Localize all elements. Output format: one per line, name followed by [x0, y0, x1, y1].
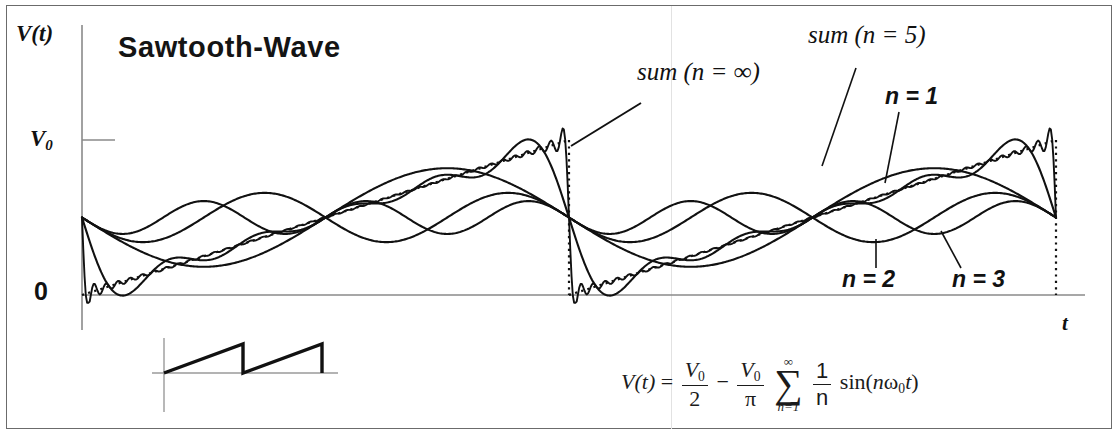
annotation-harmonic-2: n = 2: [842, 268, 895, 291]
formula-term1-num-v: V: [685, 357, 698, 382]
formula-minus: −: [716, 369, 728, 394]
formula-one-over-n-num: 1: [813, 359, 831, 384]
leader-line-harmonic-3: [941, 231, 961, 268]
inset-sawtooth-trace: [164, 344, 322, 373]
leader-line-harmonic-1: [885, 112, 899, 183]
formula-term2-numerator: V0: [737, 358, 763, 386]
waveform-plot-svg: [0, 0, 1119, 435]
annotation-harmonic-1: n = 1: [885, 85, 938, 108]
annotation-sum-five: sum (n = 5): [808, 22, 926, 47]
formula-term1-denominator: 2: [682, 386, 708, 410]
y-tick-label-zero: 0: [34, 279, 48, 304]
y-tick-label-v0-v: V: [30, 126, 45, 151]
page-title: Sawtooth-Wave: [118, 33, 341, 62]
formula-sin-omega: ω: [884, 369, 898, 394]
leader-line-sum-five: [822, 68, 856, 166]
formula-equals: =: [661, 369, 673, 394]
annotation-sum-infinite: sum (n = ∞): [637, 59, 760, 84]
formula-term2-num-v: V: [740, 357, 753, 382]
formula-sin-n: n: [873, 369, 884, 394]
formula-sin-close: ): [911, 369, 918, 394]
formula-term2-num-sub: 0: [754, 369, 761, 384]
formula-sigma-symbol: ∑: [774, 368, 803, 400]
formula-term1-fraction: V0 2: [682, 358, 708, 410]
fourier-series-formula: V(t) = V0 2 − V0 π ∞ ∑ n=1 1 n sin(nω0t): [621, 355, 919, 413]
y-tick-label-v0: V0: [30, 127, 53, 153]
formula-sigma-lower-limit: n=1: [774, 400, 803, 413]
formula-term1-num-sub: 0: [698, 369, 705, 384]
sawtooth-waveform-inset: [152, 338, 338, 412]
waveform-curves-group: [82, 128, 1056, 302]
leader-line-sum-infinite: [571, 103, 641, 146]
formula-one-over-n: 1 n: [813, 359, 831, 408]
formula-lhs-fn: V: [621, 369, 634, 394]
formula-lhs-arg: (t): [634, 369, 655, 394]
formula-sin-open: sin(: [840, 369, 873, 394]
formula-one-over-n-den: n: [813, 385, 831, 409]
x-axis-label: t: [1062, 313, 1068, 334]
formula-term2-denominator: π: [737, 386, 763, 410]
y-axis-label: V(t): [16, 22, 53, 45]
y-axis-label-v: V: [16, 21, 31, 46]
figure-root: V(t) Sawtooth-Wave V0 0 t sum (n = ∞) su…: [0, 0, 1119, 435]
formula-term2-fraction: V0 π: [737, 358, 763, 410]
annotation-harmonic-3: n = 3: [952, 268, 1005, 291]
y-tick-label-v0-sub: 0: [45, 137, 53, 153]
formula-term1-numerator: V0: [682, 358, 708, 386]
y-axis-label-arg: (t): [31, 21, 53, 46]
formula-summation: ∞ ∑ n=1: [774, 355, 803, 413]
